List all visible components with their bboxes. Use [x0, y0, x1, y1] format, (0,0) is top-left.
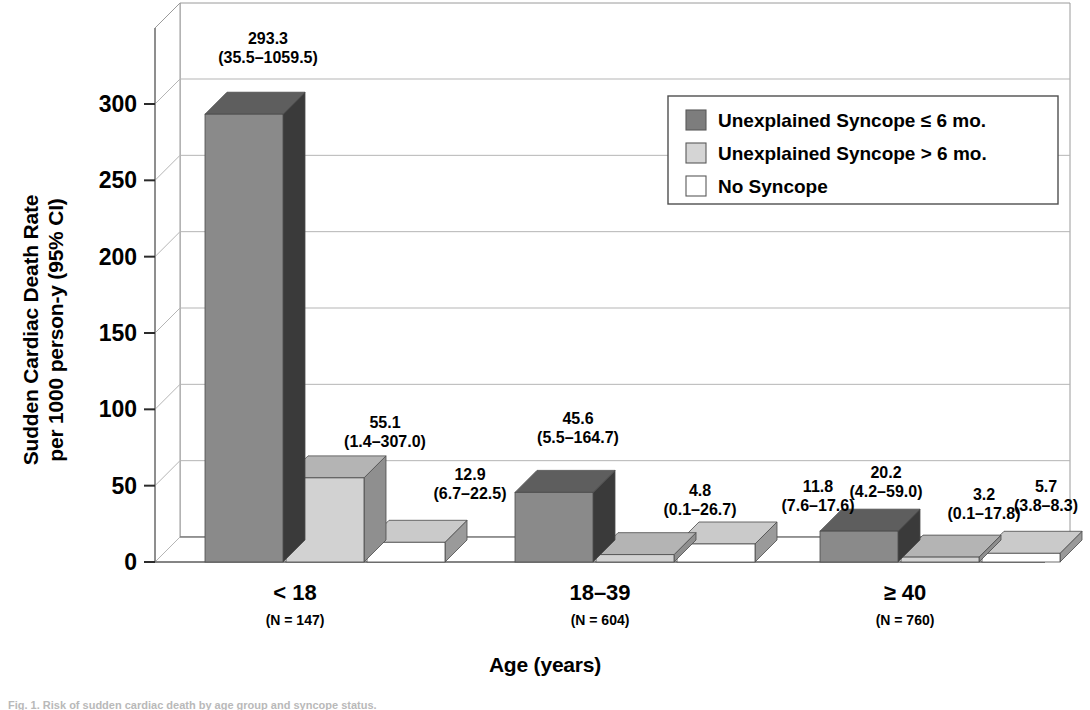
bar-front-face: [820, 531, 898, 562]
bar-ci-label: (1.4–307.0): [344, 433, 426, 450]
y-tick-label: 300: [99, 91, 137, 117]
y-axis-title-line2: per 1000 person-y (95% CI): [44, 198, 67, 461]
legend-label: No Syncope: [718, 176, 828, 197]
bar-ci-label: (0.1–26.7): [664, 501, 737, 518]
category-sublabel: (N = 760): [876, 612, 935, 628]
bar-value-label: 3.2: [973, 486, 995, 503]
bar-front-face: [596, 555, 674, 562]
bar-value-label: 55.1: [369, 414, 400, 431]
bar-value-label: 11.8: [803, 478, 833, 495]
bar-ci-label: (5.5–164.7): [537, 429, 619, 446]
bar-1-1: [205, 92, 305, 562]
figure-caption: Fig. 1. Risk of sudden cardiac death by …: [8, 699, 1082, 710]
x-axis-title: Age (years): [489, 653, 601, 676]
category-label: 18–39: [569, 580, 630, 605]
bar-value-label: 20.2: [870, 464, 901, 481]
bar-front-face: [901, 557, 979, 562]
category-label: ≥ 40: [884, 580, 927, 605]
y-axis-title-line1: Sudden Cardiac Death Rate: [19, 195, 42, 465]
category-labels: < 18(N = 147)18–39(N = 604)≥ 40(N = 760): [266, 580, 935, 628]
category-sublabel: (N = 147): [266, 612, 325, 628]
legend-swatch: [686, 110, 706, 130]
category-label: < 18: [273, 580, 316, 605]
left-wall: [155, 3, 180, 562]
y-tick-label: 50: [111, 473, 137, 499]
bar-ci-label: (0.1–17.8): [948, 505, 1021, 522]
y-tick-label: 200: [99, 244, 137, 270]
bar-ci-label: (4.2–59.0): [850, 483, 923, 500]
bar-chart-3d: 050100150200250300 293.3(35.5–1059.5)55.…: [0, 0, 1090, 710]
y-tick-label: 250: [99, 167, 137, 193]
bar-front-face: [515, 492, 593, 562]
y-tick-label: 0: [124, 549, 137, 575]
legend-label: Unexplained Syncope > 6 mo.: [718, 143, 987, 164]
legend-label: Unexplained Syncope ≤ 6 mo.: [718, 110, 986, 131]
bar-2-1: [515, 470, 615, 562]
figure-container: 050100150200250300 293.3(35.5–1059.5)55.…: [0, 0, 1090, 710]
y-tick-label: 150: [99, 320, 137, 346]
legend-swatch: [686, 143, 706, 163]
bar-value-label: 4.8: [689, 482, 711, 499]
bar-value-label: 45.6: [562, 410, 593, 427]
bar-side-face: [283, 92, 305, 562]
bar-front-face: [982, 553, 1060, 562]
bar-value-label: 293.3: [248, 30, 288, 47]
bar-value-label: 5.7: [1035, 478, 1057, 495]
category-sublabel: (N = 604): [571, 612, 630, 628]
bar-ci-label: (35.5–1059.5): [218, 49, 318, 66]
bar-ci-label: (3.8–8.3): [1014, 497, 1078, 514]
bar-ci-label: (6.7–22.5): [434, 485, 507, 502]
bar-3-1: [820, 509, 920, 562]
y-tick-label: 100: [99, 396, 137, 422]
bar-ci-label: (7.6–17.6): [782, 497, 855, 514]
legend: Unexplained Syncope ≤ 6 mo.Unexplained S…: [668, 96, 1058, 204]
bar-front-face: [205, 114, 283, 562]
y-axis: 050100150200250300: [99, 28, 155, 575]
bar-value-label: 12.9: [454, 466, 485, 483]
legend-swatch: [686, 176, 706, 196]
